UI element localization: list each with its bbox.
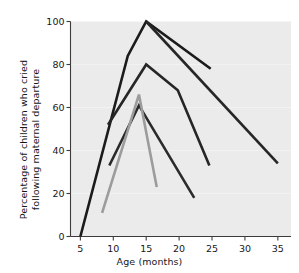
x-axis-title: Age (months)	[0, 256, 299, 267]
x-tick-label: 35	[264, 243, 292, 254]
x-tick-label: 25	[198, 243, 226, 254]
y-tick-label: 0	[35, 231, 65, 242]
x-tick-label: 30	[231, 243, 259, 254]
x-tick-label: 15	[132, 243, 160, 254]
y-tick-label: 60	[35, 102, 65, 113]
x-tick-label: 10	[99, 243, 127, 254]
y-tick-label: 100	[35, 16, 65, 27]
chart-container: Percentage of children who cried followi…	[0, 0, 299, 273]
x-tick-label: 20	[165, 243, 193, 254]
y-tick-label: 20	[35, 188, 65, 199]
y-axis-title: Percentage of children who cried followi…	[18, 55, 41, 225]
y-tick-label: 80	[35, 59, 65, 70]
x-tick-label: 5	[66, 243, 94, 254]
y-tick-label: 40	[35, 145, 65, 156]
